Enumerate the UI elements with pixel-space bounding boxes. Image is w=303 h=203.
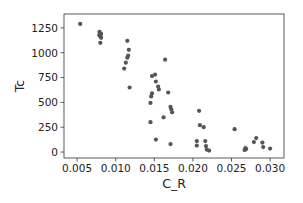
data-point	[148, 101, 152, 105]
data-point	[261, 145, 265, 149]
x-tick-label: 0.020	[178, 162, 208, 174]
y-tick-label: 750	[38, 71, 58, 83]
data-point	[99, 32, 103, 36]
data-point	[168, 142, 172, 146]
y-axis-label: Tc	[12, 80, 27, 94]
x-axis-label: C_R	[162, 176, 186, 191]
x-tick-label: 0.025	[216, 162, 246, 174]
scatter-chart: 0.0050.0100.0150.0200.0250.030 025050075…	[0, 0, 303, 203]
x-axis: 0.0050.0100.0150.0200.0250.030	[62, 158, 285, 174]
data-point	[203, 139, 207, 143]
data-point	[98, 41, 102, 45]
y-axis: 025050075010001250	[31, 22, 64, 158]
data-point	[202, 125, 206, 129]
x-tick-label: 0.010	[101, 162, 131, 174]
data-point	[153, 73, 157, 77]
data-point	[128, 85, 132, 89]
data-point	[170, 110, 174, 114]
data-point	[122, 67, 126, 71]
y-tick-label: 500	[38, 96, 58, 108]
data-point	[149, 94, 153, 98]
x-tick-label: 0.005	[62, 162, 92, 174]
data-point	[125, 56, 129, 60]
data-point	[204, 144, 208, 148]
y-tick-label: 250	[38, 121, 58, 133]
data-point	[162, 115, 166, 119]
data-point	[233, 127, 237, 131]
plot-area	[64, 14, 284, 158]
data-point	[157, 87, 161, 91]
data-point	[166, 90, 170, 94]
data-point	[148, 120, 152, 124]
data-point	[127, 48, 131, 52]
data-point	[252, 140, 256, 144]
data-point	[254, 136, 258, 140]
x-tick-label: 0.015	[139, 162, 169, 174]
data-point	[125, 39, 129, 43]
data-point	[207, 149, 211, 153]
data-point	[243, 148, 247, 152]
data-point	[197, 109, 201, 113]
x-tick-label: 0.030	[255, 162, 285, 174]
data-point	[124, 61, 128, 65]
data-point	[154, 79, 158, 83]
data-point	[195, 144, 199, 148]
data-point	[163, 58, 167, 62]
y-tick-label: 1000	[31, 47, 58, 59]
data-point	[78, 22, 82, 26]
data-point	[195, 139, 199, 143]
data-point	[260, 141, 264, 145]
y-tick-label: 0	[51, 146, 58, 158]
data-point	[268, 147, 272, 151]
data-point	[154, 138, 158, 142]
data-point	[198, 123, 202, 127]
y-tick-label: 1250	[31, 22, 58, 34]
